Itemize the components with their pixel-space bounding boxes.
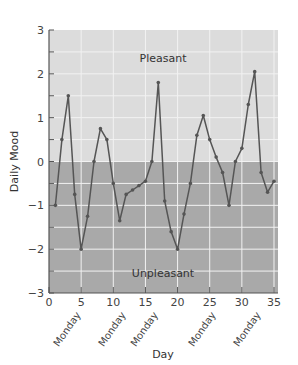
- y-tick-label: 0: [37, 156, 44, 169]
- data-point: [208, 138, 212, 142]
- data-point: [105, 138, 109, 142]
- data-point: [118, 219, 122, 223]
- y-tick-label: 2: [37, 68, 44, 81]
- data-point: [156, 81, 160, 85]
- data-point: [79, 247, 83, 251]
- x-tick-label: 20: [171, 296, 185, 309]
- data-point: [66, 94, 70, 98]
- data-point: [150, 160, 154, 164]
- data-point: [144, 179, 148, 183]
- data-point: [92, 160, 96, 164]
- data-point: [201, 114, 205, 118]
- data-point: [176, 247, 180, 251]
- x-axis-title: Day: [152, 348, 174, 361]
- x-tick-label: 35: [267, 296, 281, 309]
- data-point: [131, 188, 135, 192]
- data-point: [221, 171, 225, 175]
- monday-label: Monday: [186, 310, 218, 349]
- x-tick-label: 10: [106, 296, 120, 309]
- data-point: [272, 179, 276, 183]
- y-axis-title: Daily Mood: [8, 131, 21, 192]
- data-point: [54, 204, 58, 208]
- data-point: [163, 199, 167, 203]
- data-point: [246, 103, 250, 107]
- y-tick-label: −1: [28, 199, 44, 212]
- data-point: [240, 147, 244, 151]
- x-tick-label: 5: [78, 296, 85, 309]
- x-tick-label: 15: [138, 296, 152, 309]
- monday-label: Monday: [128, 310, 160, 349]
- data-point: [60, 138, 64, 142]
- data-point: [182, 212, 186, 216]
- y-tick-label: 1: [37, 112, 44, 125]
- data-point: [195, 133, 199, 137]
- data-point: [73, 193, 77, 197]
- data-point: [86, 214, 90, 218]
- data-point: [99, 127, 103, 131]
- y-tick-label: −3: [28, 287, 44, 300]
- monday-label: Monday: [231, 310, 263, 349]
- data-point: [111, 182, 115, 186]
- x-tick-label: 25: [203, 296, 217, 309]
- data-point: [124, 193, 128, 197]
- data-point: [137, 184, 141, 188]
- unpleasant-label: Unpleasant: [132, 267, 195, 280]
- data-point: [214, 155, 218, 159]
- y-tick-label: 3: [37, 24, 44, 37]
- mood-line-chart: −3−2−1012305101520253035MondayMondayMond…: [0, 0, 298, 365]
- monday-label: Monday: [96, 310, 128, 349]
- data-point: [266, 190, 270, 194]
- x-tick-label: 0: [46, 296, 53, 309]
- y-tick-label: −2: [28, 243, 44, 256]
- monday-label: Monday: [51, 310, 83, 349]
- data-point: [189, 182, 193, 186]
- data-point: [253, 70, 257, 74]
- x-tick-label: 30: [235, 296, 249, 309]
- pleasant-label: Pleasant: [140, 52, 188, 65]
- data-point: [169, 230, 173, 234]
- data-point: [259, 171, 263, 175]
- data-point: [227, 204, 231, 208]
- data-point: [234, 160, 238, 164]
